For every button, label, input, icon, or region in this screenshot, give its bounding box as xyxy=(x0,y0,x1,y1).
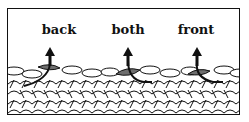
arrow-icons xyxy=(45,47,202,66)
back-arrow-icon xyxy=(45,47,55,66)
label-back: back xyxy=(42,22,76,37)
both-arrow-icon xyxy=(123,47,133,66)
label-front: front xyxy=(178,22,215,37)
crochet-stitch-illustration xyxy=(0,0,249,122)
label-both: both xyxy=(111,22,144,37)
stitch-body-rows xyxy=(8,80,248,113)
both-loops xyxy=(116,69,140,76)
front-arrow-icon xyxy=(192,47,202,66)
